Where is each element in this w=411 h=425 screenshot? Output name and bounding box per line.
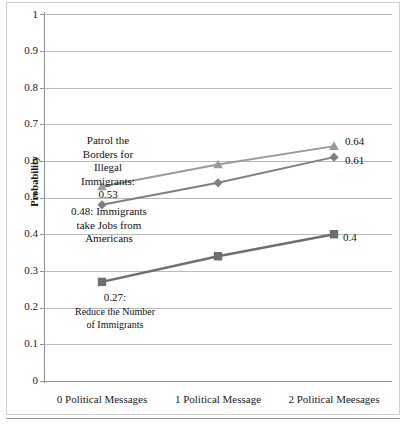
data-point-marker	[329, 153, 338, 162]
annotation-immigrants-jobs: 0.48: Immigrants take Jobs from American…	[44, 205, 174, 246]
annotation-line: 0.27:	[50, 291, 180, 305]
annotation-line: 0.53	[52, 188, 164, 202]
x-axis-labels: 0 Political Messages 1 Political Message…	[44, 392, 392, 410]
annotation-patrol-borders: Patrol the Borders for Illegal Immigrant…	[52, 134, 164, 202]
data-point-marker	[214, 252, 222, 260]
data-label-jobs: 0.61	[345, 154, 364, 166]
annotation-line: Illegal	[52, 161, 164, 175]
x-tick-label: 2 Political Meesages	[270, 392, 398, 406]
data-point-marker	[213, 178, 222, 187]
annotation-line: Patrol the	[52, 134, 164, 148]
data-point-marker	[98, 278, 106, 286]
chart-figure: Probability 1 0.9 0.8 0.7 0.6 0.5 0.4 0.…	[0, 0, 411, 425]
annotation-line: 0.48: Immigrants	[44, 205, 174, 219]
annotation-line: Reduce the Number	[50, 305, 180, 318]
annotation-line: take Jobs from	[44, 219, 174, 233]
data-label-reduce: 0.4	[343, 231, 357, 243]
annotation-reduce-number: 0.27: Reduce the Number of Immigrants	[50, 291, 180, 331]
x-tick-label: 1 Political Message	[154, 392, 282, 406]
data-point-marker	[330, 230, 338, 238]
x-tick-label: 0 Political Messages	[38, 392, 166, 406]
data-point-marker	[329, 141, 339, 150]
data-label-patrol: 0.64	[345, 135, 364, 147]
annotation-line: of Immigrants	[50, 318, 180, 331]
annotation-line: Immigrants:	[52, 175, 164, 189]
annotation-line: Borders for	[52, 148, 164, 162]
annotation-line: Americans	[44, 232, 174, 246]
